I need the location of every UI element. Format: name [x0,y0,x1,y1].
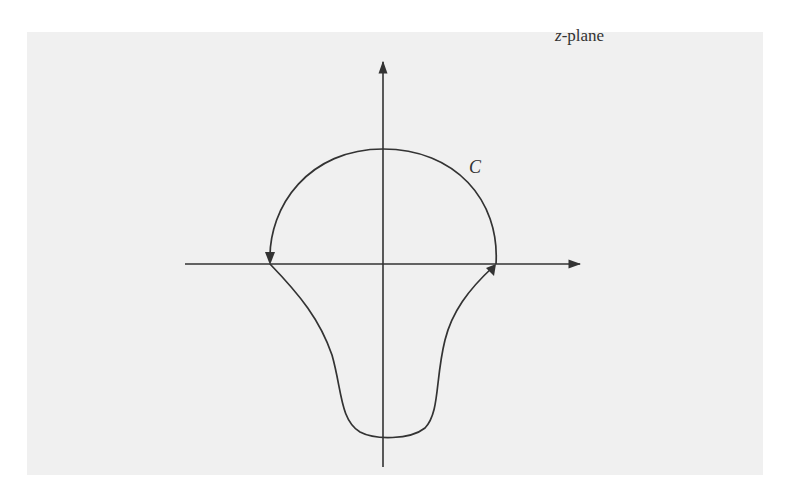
arrow-down-icon [265,252,275,265]
plane-label-variable: z [555,26,562,45]
arrow-up-right-icon [486,264,496,276]
contour-lower-lobe [270,264,494,438]
z-plane-diagram [0,0,789,501]
plane-label: z-plane [555,26,604,46]
plane-label-suffix: -plane [562,26,604,45]
contour-label: C [469,157,481,178]
